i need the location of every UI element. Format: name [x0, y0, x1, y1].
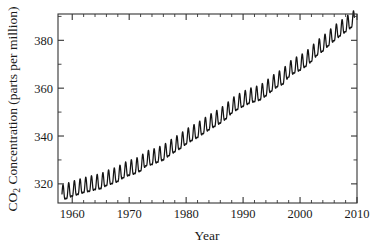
x-tick-label: 1970 — [117, 207, 142, 221]
svg-text:CO2 Concentration (parts per m: CO2 Concentration (parts per million) — [5, 7, 22, 212]
y-tick-label: 320 — [34, 177, 53, 191]
y-axis-title: CO2 Concentration (parts per million) — [5, 7, 22, 212]
y-axis-title-suffix: Concentration (parts per million) — [5, 7, 20, 188]
x-tick-label: 1960 — [60, 207, 85, 221]
y-tick-label: 360 — [34, 82, 53, 96]
x-tick-label: 1990 — [231, 207, 256, 221]
y-tick-label: 340 — [34, 130, 53, 144]
x-tick-label: 2010 — [345, 207, 370, 221]
x-tick-label: 1980 — [174, 207, 199, 221]
co2-concentration-chart: 196019701980199020002010320340360380 Yea… — [0, 0, 381, 248]
y-axis-title-prefix: CO — [5, 192, 20, 211]
y-tick-label: 380 — [34, 34, 53, 48]
chart-canvas: 196019701980199020002010320340360380 Yea… — [0, 0, 381, 248]
x-tick-label: 2000 — [288, 207, 313, 221]
x-axis-title: Year — [195, 228, 220, 243]
